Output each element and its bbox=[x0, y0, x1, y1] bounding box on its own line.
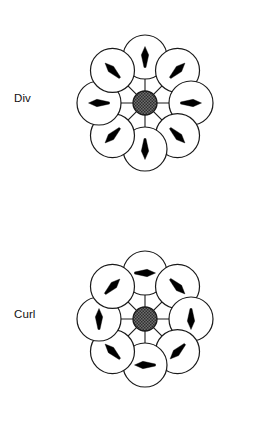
satellite-top-left bbox=[90, 264, 134, 308]
center-hub-div bbox=[133, 91, 157, 115]
satellite-top-left bbox=[90, 48, 134, 92]
div-vector-field-diagram bbox=[0, 0, 259, 216]
figure-curl: Curl bbox=[0, 216, 259, 432]
curl-vector-field-diagram bbox=[0, 216, 259, 432]
center-hub-curl bbox=[133, 307, 157, 331]
figure-div: Div bbox=[0, 0, 259, 216]
